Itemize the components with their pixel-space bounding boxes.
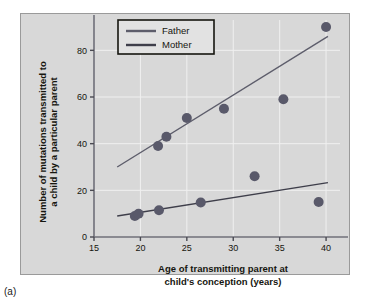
figure-caption: (a) bbox=[4, 286, 16, 297]
y-tick-label: 0 bbox=[82, 232, 87, 242]
data-point bbox=[196, 197, 206, 207]
data-point bbox=[161, 132, 171, 142]
trend-lines bbox=[117, 36, 328, 216]
data-point bbox=[278, 94, 288, 104]
y-tick-label: 40 bbox=[77, 139, 87, 149]
scatter-chart: 020406080152025303540 FatherMother Age o… bbox=[0, 0, 365, 306]
x-tick-label: 20 bbox=[135, 243, 145, 253]
y-axis-label-line2: a child by a particular parent bbox=[48, 76, 59, 206]
chart-legend[interactable]: FatherMother bbox=[118, 20, 214, 54]
y-axis-label-line1: Number of mutations transmitted to bbox=[37, 61, 48, 223]
x-tick-label: 35 bbox=[275, 243, 285, 253]
x-tick-label: 30 bbox=[228, 243, 238, 253]
x-tick-label: 15 bbox=[89, 243, 99, 253]
legend-label-father: Father bbox=[162, 25, 189, 36]
data-point bbox=[250, 171, 260, 181]
tick-labels: 020406080152025303540 bbox=[77, 46, 331, 253]
y-tick-label: 60 bbox=[77, 92, 87, 102]
data-point bbox=[321, 22, 331, 32]
data-point bbox=[219, 104, 229, 114]
trend-line-father bbox=[117, 36, 328, 167]
figure-container: 020406080152025303540 FatherMother Age o… bbox=[0, 0, 365, 306]
trend-line-mother bbox=[117, 183, 328, 216]
y-tick-label: 80 bbox=[77, 46, 87, 56]
x-tick-label: 25 bbox=[182, 243, 192, 253]
x-axis-label-line2: child's conception (years) bbox=[165, 276, 282, 287]
x-tick-label: 40 bbox=[321, 243, 331, 253]
data-point bbox=[153, 141, 163, 151]
legend-label-mother: Mother bbox=[162, 39, 192, 50]
data-point bbox=[314, 197, 324, 207]
y-tick-label: 20 bbox=[77, 186, 87, 196]
x-axis-label-line1: Age of transmitting parent at bbox=[158, 263, 289, 274]
data-point bbox=[134, 209, 144, 219]
data-point bbox=[154, 205, 164, 215]
axis-ticks bbox=[90, 50, 326, 241]
data-point bbox=[182, 113, 192, 123]
